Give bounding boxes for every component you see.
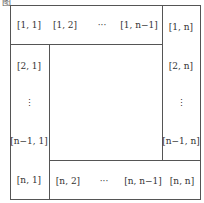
cell-n-2: [n, 2] bbox=[56, 176, 80, 186]
cell-n-minus-1-1: [n−1, 1] bbox=[10, 136, 48, 146]
top-band-divider bbox=[10, 44, 162, 45]
matrix-outer-border bbox=[10, 5, 201, 200]
cell-n-1: [n, 1] bbox=[17, 175, 41, 185]
cell-1-n-minus-1: [1, n−1] bbox=[120, 20, 158, 30]
bottom-band-divider bbox=[49, 160, 201, 161]
ellipsis-top: ··· bbox=[98, 20, 107, 30]
cell-1-1: [1, 1] bbox=[17, 20, 41, 30]
ellipsis-bottom: ··· bbox=[100, 176, 109, 186]
vellipsis-right: ⋮ bbox=[177, 98, 186, 108]
cell-n-n: [n, n] bbox=[170, 176, 194, 186]
left-column-divider bbox=[49, 44, 50, 200]
cell-2-n: [2, n] bbox=[169, 61, 193, 71]
cell-1-2: [1, 2] bbox=[53, 20, 77, 30]
cell-n-minus-1-n: [n−1, n] bbox=[162, 136, 200, 146]
cell-2-1: [2, 1] bbox=[17, 61, 41, 71]
cell-n-n-minus-1: [n, n−1] bbox=[124, 176, 162, 186]
vellipsis-left: ⋮ bbox=[25, 98, 34, 108]
cell-1-n: [1, n] bbox=[169, 22, 193, 32]
